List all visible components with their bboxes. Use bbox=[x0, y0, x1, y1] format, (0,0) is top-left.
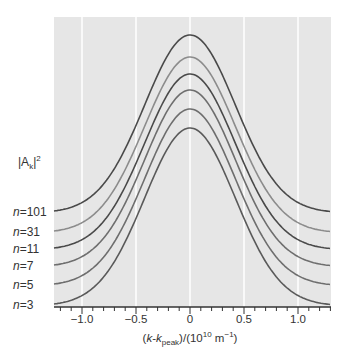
series-label: n=11 bbox=[13, 242, 39, 256]
x-tick-label: −0.5 bbox=[125, 313, 148, 325]
series-label: n=7 bbox=[13, 259, 33, 273]
chart-canvas bbox=[0, 0, 344, 357]
x-tick-label: 0 bbox=[187, 313, 193, 325]
series-label: n=101 bbox=[13, 205, 47, 219]
series-label: n=5 bbox=[13, 278, 33, 292]
x-axis-title: (k-kpeak)/(1010 m−1) bbox=[143, 330, 238, 347]
x-tick-label: 0.5 bbox=[236, 313, 252, 325]
series-label: n=3 bbox=[13, 298, 33, 312]
plot-background bbox=[54, 17, 331, 307]
y-axis-title: |Ak|2 bbox=[18, 154, 41, 171]
x-tick-label: −1.0 bbox=[71, 313, 94, 325]
x-tick-label: 1.0 bbox=[290, 313, 306, 325]
series-label: n=31 bbox=[13, 225, 40, 239]
